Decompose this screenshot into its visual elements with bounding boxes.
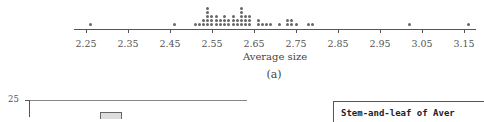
data-dot [240,15,243,18]
dotplot-axis-title: Average size [243,51,307,62]
data-dot [206,7,209,10]
data-dot [227,23,230,26]
data-dot [240,23,243,26]
x-tick [170,29,171,33]
data-dot [215,23,218,26]
x-tick [338,29,339,33]
x-tick [296,29,297,33]
data-dot [210,15,213,18]
data-dot [206,23,209,26]
data-dot [248,19,251,22]
data-dot [215,19,218,22]
stem-and-leaf-title: Stem-and-leaf of Aver [341,108,455,118]
x-tick-label: 2.45 [159,38,180,49]
data-dot [223,19,226,22]
data-dot [269,23,272,26]
data-dot [290,23,293,26]
x-tick [86,29,87,33]
data-dot [278,23,281,26]
data-dot [232,23,235,26]
data-dot [307,23,310,26]
data-dot [244,23,247,26]
data-dot [408,23,411,26]
x-tick-label: 2.65 [243,38,264,49]
data-dot [240,19,243,22]
x-tick-label: 2.85 [327,38,348,49]
data-dot [223,23,226,26]
data-dot [215,15,218,18]
x-tick [254,29,255,33]
data-dot [206,15,209,18]
data-dot [295,23,298,26]
data-dot [236,23,239,26]
x-tick-label: 3.05 [411,38,432,49]
data-dot [173,23,176,26]
data-dot [257,23,260,26]
data-dot [248,23,251,26]
histogram-bar [100,112,122,119]
x-tick-label: 2.75 [285,38,306,49]
histogram-y-axis [29,100,30,117]
data-dot [286,23,289,26]
x-tick-label: 2.95 [369,38,390,49]
data-dot [261,23,264,26]
x-tick [128,29,129,33]
data-dot [240,11,243,14]
data-dot [219,23,222,26]
data-dot [198,23,201,26]
data-dot [89,23,92,26]
data-dot [210,23,213,26]
x-tick [422,29,423,33]
data-dot [257,19,260,22]
data-dot [244,15,247,18]
data-dot [244,19,247,22]
histogram-y-tick-label: 25 [8,94,19,104]
x-tick [380,29,381,33]
x-tick-label: 2.35 [117,38,138,49]
data-dot [290,19,293,22]
data-dot [202,23,205,26]
dotplot-x-axis [74,29,476,30]
data-dot [219,19,222,22]
data-dot [227,19,230,22]
x-tick-label: 3.15 [453,38,474,49]
histogram-top-line [29,100,247,101]
data-dot [236,19,239,22]
x-tick [464,29,465,33]
x-tick-label: 2.55 [201,38,222,49]
stem-and-leaf-panel: Stem-and-leaf of Aver [333,101,484,122]
data-dot [286,19,289,22]
data-dot [232,15,235,18]
panel-label-a: (a) [266,68,281,81]
x-tick-label: 2.25 [75,38,96,49]
data-dot [210,19,213,22]
x-tick [212,29,213,33]
data-dot [194,23,197,26]
data-dot [202,19,205,22]
data-dot [206,11,209,14]
data-dot [223,15,226,18]
data-dot [311,23,314,26]
data-dot [265,23,268,26]
data-dot [232,19,235,22]
data-dot [248,15,251,18]
data-dot [240,7,243,10]
data-dot [206,19,209,22]
data-dot [467,23,470,26]
